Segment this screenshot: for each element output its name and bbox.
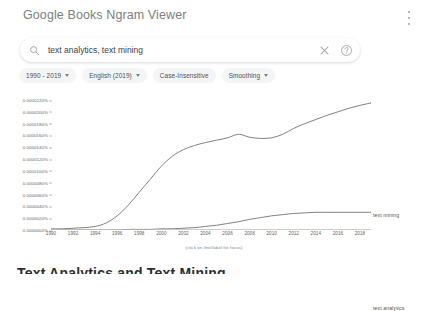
y-axis-tick: 0.0000200%: [23, 109, 48, 114]
menu-dot: [408, 23, 410, 25]
series-leader-line: [371, 209, 372, 213]
series-label-text-mining[interactable]: text mining: [373, 212, 399, 218]
x-axis-tick: 2002: [178, 231, 188, 236]
y-axis-tick: 0.0000160%: [23, 133, 48, 138]
x-axis-tick: 2008: [244, 231, 254, 236]
chip-corpus-label: English (2019): [89, 72, 132, 79]
x-axis-tick: 1994: [90, 231, 100, 236]
next-section-heading: Text Analytics and Text Mining: [17, 265, 226, 274]
y-axis-tick-labels: 0.0000000%0.0000020%0.0000040%0.0000060%…: [0, 100, 54, 230]
page-title: Google Books Ngram Viewer: [23, 8, 186, 22]
chart-focus-hint: (click on line/label for focus): [0, 245, 428, 250]
close-icon[interactable]: [318, 44, 331, 57]
series-label-text-analytics[interactable]: text analytics: [373, 305, 404, 311]
x-axis-tick: 2014: [311, 231, 321, 236]
chart-plot-area[interactable]: [51, 100, 371, 230]
x-axis-tick: 1996: [112, 231, 122, 236]
chevron-down-icon: [65, 74, 69, 77]
x-axis-tick-labels: 1990199219941996199820002002200420062008…: [51, 231, 371, 241]
search-bar[interactable]: [20, 38, 360, 62]
app-header: Google Books Ngram Viewer: [0, 0, 428, 32]
search-icon: [29, 45, 40, 56]
x-axis-tick: 2000: [156, 231, 166, 236]
x-axis-tick: 2016: [333, 231, 343, 236]
search-input[interactable]: [48, 45, 318, 55]
chip-corpus[interactable]: English (2019): [82, 68, 147, 83]
y-axis-tick: 0.0000100%: [23, 168, 48, 173]
chip-date-range-label: 1990 - 2019: [26, 72, 61, 79]
y-axis-tick: 0.0000220%: [23, 98, 48, 103]
x-axis-tick: 2018: [355, 231, 365, 236]
menu-dot: [408, 11, 410, 13]
chevron-down-icon: [136, 74, 140, 77]
chip-case-insensitive-label: Case-Insensitive: [160, 72, 209, 79]
x-axis-tick: 2010: [266, 231, 276, 236]
more-vert-icon[interactable]: [402, 10, 416, 26]
x-axis-tick: 2012: [289, 231, 299, 236]
filter-chips-row: 1990 - 2019 English (2019) Case-Insensit…: [19, 68, 275, 83]
x-axis-tick: 1998: [134, 231, 144, 236]
y-axis-tick: 0.0000060%: [23, 192, 48, 197]
chip-smoothing-label: Smoothing: [229, 72, 260, 79]
chevron-down-icon: [264, 74, 268, 77]
x-axis-tick: 1992: [68, 231, 78, 236]
y-axis-tick: 0.0000180%: [23, 121, 48, 126]
y-axis-tick: 0.0000120%: [23, 157, 48, 162]
chip-case-insensitive[interactable]: Case-Insensitive: [153, 68, 216, 83]
x-axis-tick: 2004: [200, 231, 210, 236]
y-axis-tick: 0.0000040%: [23, 204, 48, 209]
chip-date-range[interactable]: 1990 - 2019: [19, 68, 76, 83]
help-circle-icon[interactable]: [340, 44, 353, 57]
y-axis-tick: 0.0000140%: [23, 145, 48, 150]
x-axis-tick: 1990: [46, 231, 56, 236]
chip-smoothing[interactable]: Smoothing: [222, 68, 275, 83]
chart-line-text-mining[interactable]: [51, 103, 371, 229]
menu-dot: [408, 17, 410, 19]
x-axis-tick: 2006: [222, 231, 232, 236]
y-axis-tick: 0.0000080%: [23, 180, 48, 185]
y-axis-tick: 0.0000020%: [23, 216, 48, 221]
series-leader-line: [371, 103, 372, 116]
chart-line-text-analytics[interactable]: [51, 212, 371, 230]
y-axis-tick: 0.0000000%: [23, 228, 48, 233]
ngram-chart: 0.0000000%0.0000020%0.0000040%0.0000060%…: [0, 100, 428, 250]
